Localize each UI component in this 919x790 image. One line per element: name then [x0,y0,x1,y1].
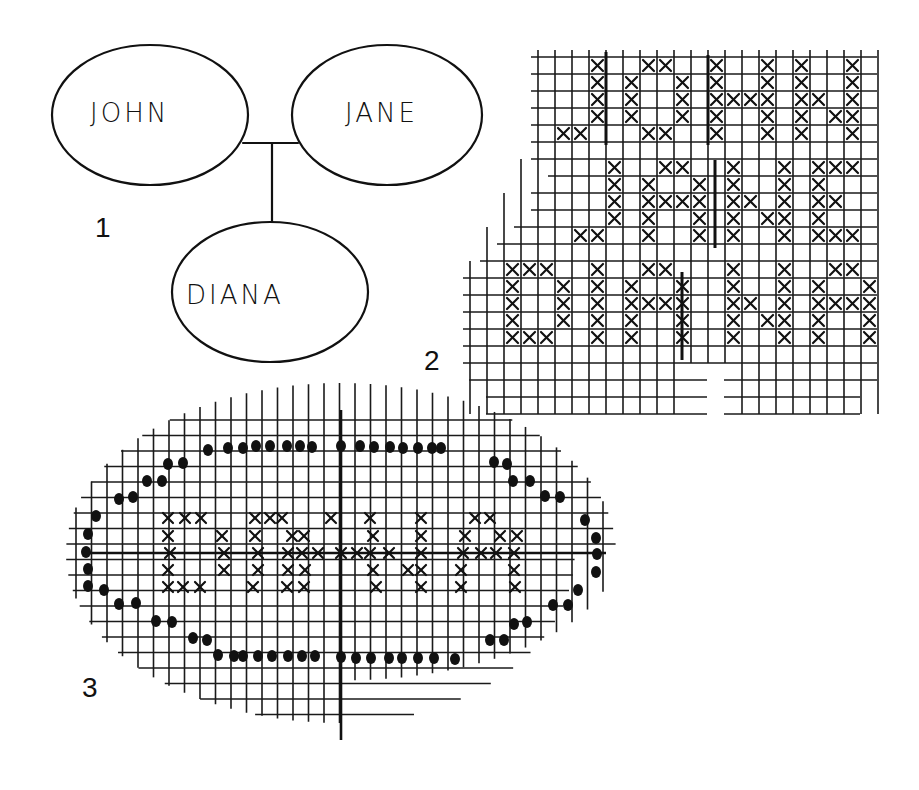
oval-label-jane: JANE [345,98,418,128]
oval-label-john: JOHN [90,98,169,128]
family-tree-figure [52,45,482,362]
figure-label-2: 2 [424,345,440,377]
figure-label-3: 3 [82,672,98,704]
figure-label-1: 1 [95,212,111,244]
oval-label-diana: DIANA [186,280,284,310]
oval-cross-stitch-chart [66,383,615,740]
cross-stitch-chart-names [463,50,878,414]
